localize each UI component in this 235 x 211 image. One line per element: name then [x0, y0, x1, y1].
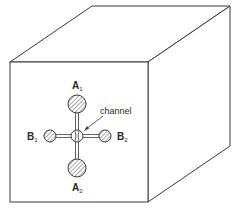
label-channel: channel	[100, 106, 132, 116]
electrode-b2	[99, 130, 111, 142]
diagram-canvas: A1 A2 B1 B2 channel	[0, 0, 235, 211]
cube-diagram: A1 A2 B1 B2 channel	[0, 0, 235, 211]
channel-junction	[71, 130, 83, 142]
electrode-b1	[44, 130, 56, 142]
electrode-a2	[68, 159, 86, 177]
electrode-a1	[68, 95, 86, 113]
